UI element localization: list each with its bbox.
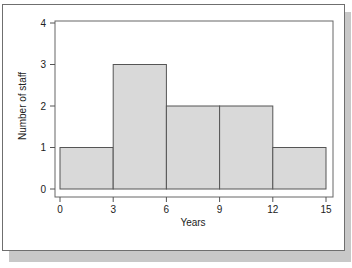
x-tick-label: 3 [110, 204, 116, 215]
x-tick-label: 12 [267, 204, 279, 215]
y-tick-label: 0 [40, 184, 46, 195]
histogram-bar [113, 65, 166, 190]
x-axis-title: Years [180, 217, 205, 228]
x-tick-label: 6 [164, 204, 170, 215]
histogram-bar [220, 106, 273, 189]
x-axis: 03691215 [57, 197, 332, 215]
histogram-bar [166, 106, 219, 189]
x-tick-label: 0 [57, 204, 63, 215]
y-tick-label: 3 [40, 59, 46, 70]
histogram-chart: 01234 03691215 Years Number of staff [0, 0, 352, 268]
y-axis-title: Number of staff [17, 72, 28, 140]
histogram-bar [60, 148, 113, 190]
y-tick-label: 4 [40, 18, 46, 29]
y-tick-label: 2 [40, 101, 46, 112]
x-tick-label: 15 [320, 204, 332, 215]
histogram-bar [273, 148, 326, 190]
x-tick-label: 9 [217, 204, 223, 215]
y-axis: 01234 [40, 18, 55, 195]
y-tick-label: 1 [40, 142, 46, 153]
